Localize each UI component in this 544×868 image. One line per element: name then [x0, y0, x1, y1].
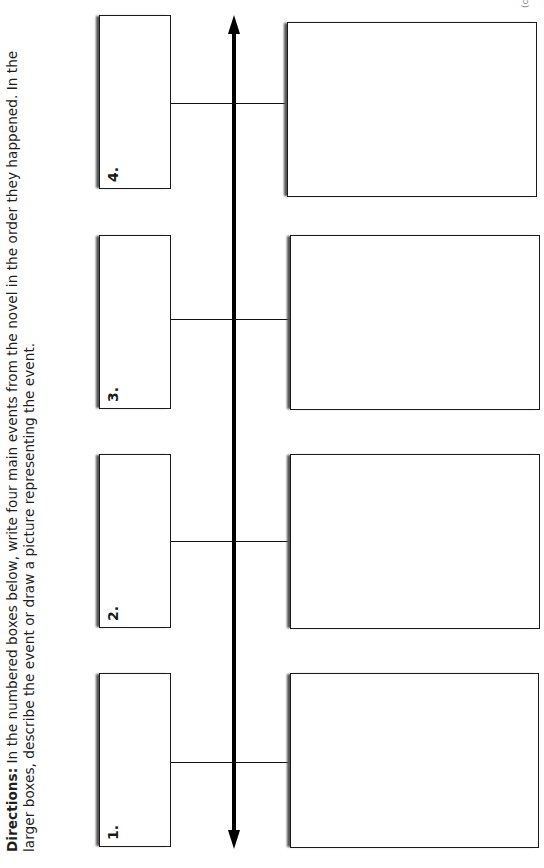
- event-3-number-label: 3.: [106, 387, 120, 402]
- directions-body: In the numbered boxes below, write four …: [4, 51, 37, 852]
- event-4-connector: [171, 103, 290, 104]
- event-3-description-box[interactable]: [290, 235, 540, 410]
- event-2-description-box[interactable]: [290, 454, 540, 629]
- event-4-number-label: 4.: [106, 167, 120, 182]
- event-4-description-box[interactable]: [287, 22, 537, 197]
- event-3-connector: [171, 319, 290, 320]
- directions-label: Directions:: [4, 768, 20, 852]
- event-2-number-box[interactable]: 2.: [99, 454, 171, 628]
- timeline-arrowhead-start-icon: [228, 830, 240, 849]
- directions-text: Directions: In the numbered boxes below,…: [4, 12, 37, 852]
- event-1-number-box[interactable]: 1.: [99, 673, 171, 847]
- event-1-number-label: 1.: [106, 825, 120, 840]
- page-corner-fragment: (co: [520, 0, 530, 8]
- event-1-description-box[interactable]: [290, 673, 539, 848]
- event-2-number-label: 2.: [106, 606, 120, 621]
- event-3-number-box[interactable]: 3.: [99, 235, 171, 409]
- event-2-connector: [171, 541, 290, 542]
- timeline-axis: [232, 30, 236, 835]
- event-4-number-box[interactable]: 4.: [99, 15, 171, 189]
- event-1-connector: [171, 762, 290, 763]
